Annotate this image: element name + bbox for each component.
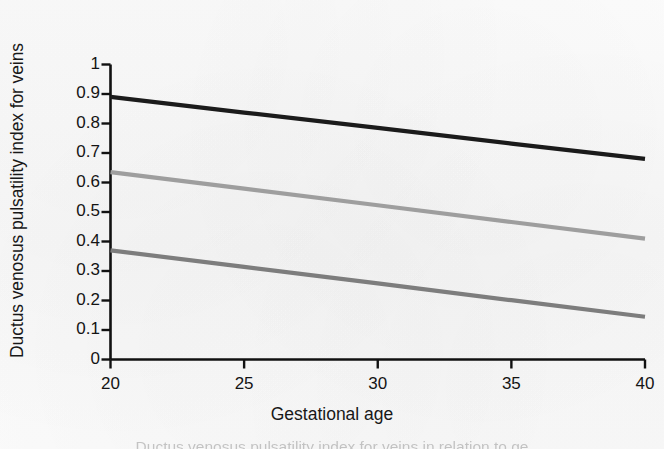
figure-caption: Ductus venosus pulsatility index for vei…: [0, 438, 664, 449]
x-tick-label: 35: [481, 374, 541, 394]
y-tick-label: 0.5: [40, 201, 100, 221]
figure-caption-strip: Ductus venosus pulsatility index for vei…: [0, 431, 664, 449]
y-tick-label: 0: [40, 349, 100, 369]
x-tick-label: 20: [81, 374, 141, 394]
x-tick-label: 25: [214, 374, 274, 394]
x-tick-label: 30: [348, 374, 408, 394]
chart-figure: Ductus venosus pulsatility index for vei…: [0, 0, 664, 449]
y-tick-label: 0.8: [40, 113, 100, 133]
x-axis-title: Gestational age: [0, 404, 664, 425]
y-tick-label: 0.4: [40, 231, 100, 251]
y-tick-label: 0.1: [40, 319, 100, 339]
y-tick-label: 1: [40, 54, 100, 74]
data-series-lines: [111, 97, 646, 317]
y-tick-label: 0.2: [40, 290, 100, 310]
tick-marks: [102, 65, 646, 369]
y-tick-label: 0.9: [40, 83, 100, 103]
y-tick-label: 0.6: [40, 172, 100, 192]
y-tick-label: 0.7: [40, 142, 100, 162]
x-tick-label: 40: [615, 374, 664, 394]
axis-lines: [111, 65, 646, 360]
y-tick-label: 0.3: [40, 260, 100, 280]
